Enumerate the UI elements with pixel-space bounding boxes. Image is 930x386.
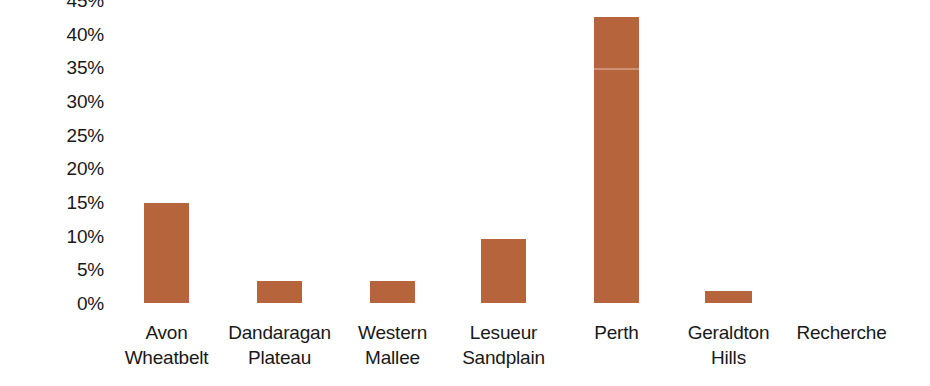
y-tick-label: 40%	[0, 25, 104, 44]
y-tick-label: 35%	[0, 58, 104, 77]
bar-slot	[481, 0, 526, 303]
bar-slot	[818, 0, 863, 303]
x-tick-line1: Perth	[594, 322, 638, 343]
x-tick-line2: Sandplain	[433, 345, 574, 370]
y-tick-label: 45%	[0, 0, 104, 10]
bar-lesueur-sandplain	[481, 239, 526, 303]
x-tick-line2: Hills	[658, 345, 799, 370]
scanline-artifact	[594, 68, 639, 70]
y-tick-label: 20%	[0, 159, 104, 178]
x-tick-line1: Avon	[145, 322, 187, 343]
bar-slot	[705, 0, 752, 303]
bar-chart: 45% 40% 35% 30% 25% 20% 15% 10% 5% 0%	[0, 0, 930, 386]
x-tick-line1: Western	[358, 322, 427, 343]
y-tick-label: 15%	[0, 193, 104, 212]
x-axis: Avon Wheatbelt Dandaragan Plateau Wester…	[104, 303, 930, 386]
y-tick-label: 30%	[0, 92, 104, 111]
bar-slot	[370, 0, 415, 303]
bar-perth	[594, 17, 639, 303]
x-tick-recherche: Recherche	[771, 320, 912, 345]
x-tick-line1: Geraldton	[688, 322, 770, 343]
plot-area	[104, 0, 930, 303]
bar-geraldton-hills	[705, 291, 752, 303]
bar-western-mallee	[370, 281, 415, 303]
bar-slot	[257, 0, 302, 303]
x-tick-line1: Dandaragan	[228, 322, 331, 343]
bar-slot	[144, 0, 189, 303]
bar-dandaragan-plateau	[257, 281, 302, 303]
y-tick-label: 0%	[0, 294, 104, 313]
bar-avon-wheatbelt	[144, 203, 189, 303]
bar-slot	[594, 0, 639, 303]
y-tick-label: 5%	[0, 260, 104, 279]
y-tick-label: 10%	[0, 227, 104, 246]
x-tick-line1: Lesueur	[470, 322, 537, 343]
y-tick-label: 25%	[0, 126, 104, 145]
y-axis: 45% 40% 35% 30% 25% 20% 15% 10% 5% 0%	[0, 0, 104, 320]
x-tick-line1: Recherche	[796, 322, 886, 343]
